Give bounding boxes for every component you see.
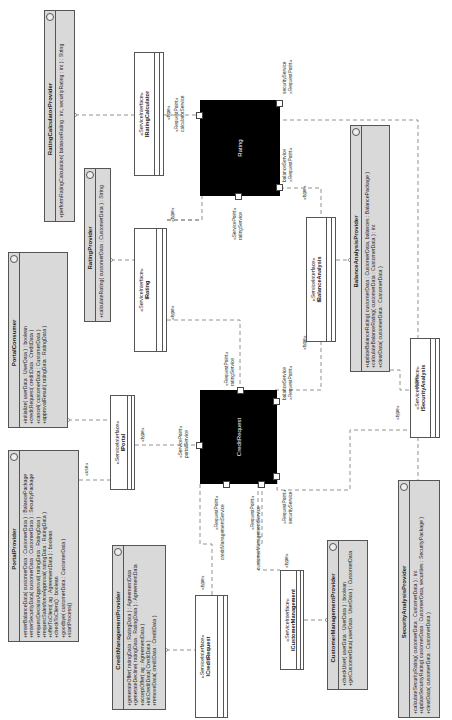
class-operation: +getCustomerData( userData : UserData ) … [347,544,353,686]
interface-stereotype: «ServiceInterface» [135,53,144,175]
component-circle-icon [329,543,337,551]
class-operation: +clearData( customerData : CustomerData … [377,129,383,368]
component-circle-icon [10,255,18,263]
class-operation: +removeData( creditData : CreditData ) [151,549,157,706]
class-name: CustomerManagementProvider [330,573,336,662]
component-circle-icon [114,548,122,556]
port-rating-rating-service[interactable] [235,193,242,200]
component-circle-icon [46,13,54,21]
class-name: PortalProvider [11,528,17,569]
interface-name: ICreditRequest [205,596,211,717]
port-rating-calculator-service[interactable] [196,112,203,119]
label-calculator-service: calculatorService [180,95,186,132]
component-rating[interactable]: Rating [200,100,280,196]
class-operation: +clearData( customerData : CustomerData … [425,484,431,714]
interface-stereotype: «ServiceInterface» [196,596,205,717]
component-circle-icon [400,483,408,491]
class-name: CreditManagementProvider [115,591,121,669]
component-circle-icon [10,453,18,461]
class-portal-consumer[interactable]: PortalConsumer +initialize( userData : U… [8,252,68,428]
component-circle-icon [86,171,94,179]
class-name: SecurityAnalysisProvider [401,566,407,639]
label-balance-service: balanceService [282,149,288,182]
interface-icredit-request[interactable]: «ServiceInterface» ICreditRequest [195,595,228,718]
label-use: «use» [84,463,90,476]
class-operation: +performRatingCalculation( balanceRating… [58,14,64,218]
label-request-point: «RequestPoint» [224,352,230,386]
label-service-point: «ServicePoint» [178,426,184,458]
component-credit-request[interactable]: CreditRequest [200,390,277,484]
label-request-point: «RequestPoint» [174,98,180,132]
interface-name: IPortal [120,396,126,489]
class-name: PortalConsumer [11,320,17,367]
class-operation: +calculateRating( customerData : Custome… [98,172,104,318]
class-customer-management-provider[interactable]: CustomerManagementProvider +checkUser( u… [327,540,368,690]
class-rating-calculator-provider[interactable]: RatingCalculatorProvider +performRatingC… [44,10,75,222]
interface-stereotype: «ServiceInterface» [307,218,316,341]
class-name: RatingCalculatorProvider [47,83,53,155]
label-type: «type» [395,406,401,420]
label-type: «type» [414,376,420,390]
class-rating-provider[interactable]: RatingProvider +calculateRating( custome… [84,168,111,322]
interface-name: IBalanceAnalysis [316,218,322,341]
class-name: RatingProvider [87,227,93,270]
port-credit-balance-service[interactable] [273,398,280,405]
label-type: «type» [284,554,290,568]
interface-stereotype: «ServiceInterface» [111,396,120,489]
class-operation: +enterSecurityData( customerData : Custo… [28,454,34,638]
interface-name: IRatingCalculator [144,53,150,175]
label-request-point: «RequestPoint» [214,496,220,530]
label-type: «type» [140,428,146,442]
label-type: «type» [170,306,176,320]
label-rating-service: ratingService [238,212,244,240]
port-credit-management-service[interactable] [223,481,230,488]
class-operation: +startProcess() [66,454,72,638]
interface-name: IRating [144,229,150,351]
label-request-point: «RequestPoint» [288,366,294,400]
label-service-point: «ServicePoint» [232,208,238,240]
label-type: «type» [166,106,172,120]
label-customer-management-service: customerManagementService [256,506,262,570]
interface-iportal[interactable]: «ServiceInterface» IPortal [110,395,135,490]
interface-ibalance-analysis[interactable]: «ServiceInterface» IBalanceAnalysis [306,217,336,342]
label-type: «type» [170,208,176,222]
class-balance-analysis-provider[interactable]: BalanceAnalysisProvider +updateBalanceRa… [350,125,390,372]
label-request-point: «RequestPoint» [288,60,294,94]
component-circle-icon [352,128,360,136]
label-type: «type» [302,186,308,200]
diagram-canvas: RatingCalculatorProvider +performRatingC… [0,0,452,720]
port-customer-management-service[interactable] [258,481,265,488]
label-security-service: securityService [282,61,288,94]
port-credit-rating-service[interactable] [237,387,244,394]
label-balance-service: balanceService [282,367,288,400]
label-credit-management-service: creditManagementService [220,504,226,560]
interface-icustomer-management[interactable]: «ServiceInterface» ICustomerManagement [280,570,304,670]
class-operation: +updateSecurityRating( customerData : Cu… [418,484,424,714]
component-name: Rating [237,139,243,156]
class-name: BalanceAnalysisProvider [353,215,359,287]
interface-irating-calculator[interactable]: «ServiceInterface» IRatingCalculator [134,52,164,176]
label-type: «type» [200,576,206,590]
class-security-analysis-provider[interactable]: SecurityAnalysisProvider +calculateSecur… [398,480,440,718]
label-type: «type» [302,336,308,350]
interface-name: ISecurityAnalysis [420,339,426,437]
port-rating-security-service[interactable] [276,100,283,107]
label-request-point: «RequestPoint» [288,148,294,182]
label-request-point: «RequestPoint» [282,490,288,524]
component-name: CreditRequest [236,418,242,456]
port-rating-balance-service[interactable] [276,184,283,191]
interface-irating[interactable]: «ServiceInterface» IRating [134,228,167,352]
label-request-point: «RequestPoint» [250,496,256,530]
class-credit-management-provider[interactable]: CreditManagementProvider +generateOffer(… [112,545,166,710]
class-portal-provider[interactable]: PortalProvider +enterBalanceData( custom… [8,450,79,642]
label-portal-service: portalService [184,430,190,458]
class-operation: +approvalResult( ratingData : RatingData… [41,256,47,424]
label-security-service: securityService [288,491,294,524]
label-rating-service: ratingService [230,358,236,386]
interface-stereotype: «ServiceInterface» [135,229,144,351]
port-credit-security-service[interactable] [273,473,280,480]
interface-stereotype: «ServiceInterface» [281,571,290,669]
port-credit-portal-service[interactable] [196,442,203,449]
class-operation: +generateDecline( ratingData : RatingDat… [132,549,138,706]
